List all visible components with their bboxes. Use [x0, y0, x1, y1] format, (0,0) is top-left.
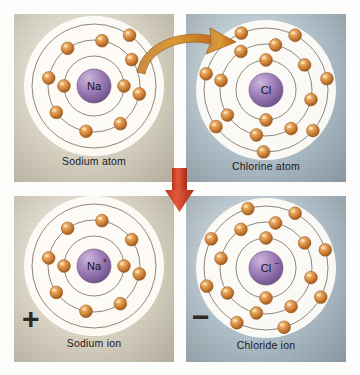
- charge-symbol-negative: −: [192, 302, 210, 332]
- atom-diagram-chlorine: Cl: [191, 15, 341, 165]
- panel-chlorine-atom: Cl Chlorine atom: [186, 14, 346, 182]
- caption-sodium-atom: Sodium atom: [14, 155, 174, 167]
- svg-text:Na: Na: [87, 80, 102, 92]
- ionic-bonding-diagram: Na Sodium atom Cl Chlorine atom Na+ + So…: [0, 0, 360, 375]
- charge-symbol-positive: +: [22, 304, 40, 334]
- svg-text:−: −: [274, 258, 279, 268]
- svg-text:+: +: [102, 256, 107, 266]
- atom-diagram-chloride-ion: Cl−: [191, 196, 341, 343]
- panel-sodium-ion: Na+ + Sodium ion: [14, 196, 174, 362]
- panel-chloride-ion: Cl− − Chloride ion: [186, 196, 346, 362]
- caption-chloride-ion: Chloride ion: [186, 339, 346, 351]
- caption-chlorine-atom: Chlorine atom: [186, 160, 346, 172]
- svg-text:Cl: Cl: [261, 262, 271, 274]
- panel-sodium-atom: Na Sodium atom: [14, 14, 174, 182]
- svg-text:Cl: Cl: [261, 84, 271, 96]
- svg-text:Na: Na: [87, 260, 102, 272]
- caption-sodium-ion: Sodium ion: [14, 337, 174, 349]
- atom-diagram-sodium-ion: Na+: [19, 196, 169, 341]
- atom-diagram-sodium: Na: [19, 14, 169, 161]
